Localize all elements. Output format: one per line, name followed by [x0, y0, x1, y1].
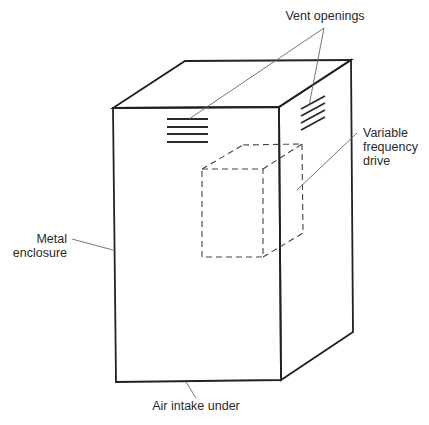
- label-enclosure-line2: enclosure: [13, 246, 67, 260]
- leader-enclosure: [72, 239, 113, 250]
- label-vfd-line1: Variable: [363, 126, 408, 140]
- label-enclosure-line1: Metal: [36, 232, 67, 246]
- label-vent-openings: Vent openings: [285, 9, 364, 23]
- side-vent-openings: [301, 96, 325, 130]
- label-vfd-line2: frequency: [363, 140, 419, 154]
- label-vfd-line3: drive: [363, 154, 390, 168]
- enclosure-front-face: [113, 107, 281, 382]
- front-vent-openings: [167, 119, 208, 142]
- vfd-hidden-box: [202, 144, 303, 257]
- leader-vfd: [297, 133, 357, 190]
- leader-vent-front: [189, 28, 324, 119]
- diagram-canvas: Vent openings Variable frequency drive M…: [0, 0, 429, 425]
- leader-air-intake: [186, 382, 196, 398]
- label-air-intake: Air intake under: [152, 399, 240, 413]
- leader-vent-side: [309, 28, 324, 106]
